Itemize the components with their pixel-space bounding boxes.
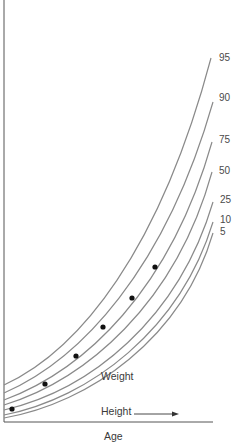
curve-95 <box>4 58 211 385</box>
data-point <box>73 353 78 358</box>
label-90: 90 <box>219 92 231 103</box>
label-75: 75 <box>219 134 231 145</box>
label-25: 25 <box>220 194 232 205</box>
percentile-curves <box>4 58 213 418</box>
growth-chart: 95 90 75 50 25 10 5 Weight Height Age <box>0 0 233 445</box>
data-point <box>9 406 14 411</box>
curve-90 <box>4 102 213 393</box>
height-annotation: Height <box>101 405 131 417</box>
data-point <box>42 381 47 386</box>
label-95: 95 <box>219 52 231 63</box>
data-point <box>129 295 134 300</box>
label-50: 50 <box>219 165 231 176</box>
curve-5 <box>4 233 213 418</box>
data-point <box>152 264 157 269</box>
height-arrow-icon <box>172 412 179 417</box>
x-axis-label: Age <box>104 430 123 442</box>
weight-annotation: Weight <box>101 370 134 382</box>
label-5: 5 <box>220 226 226 237</box>
curve-75 <box>4 142 212 400</box>
data-point <box>100 324 105 329</box>
label-10: 10 <box>220 214 232 225</box>
